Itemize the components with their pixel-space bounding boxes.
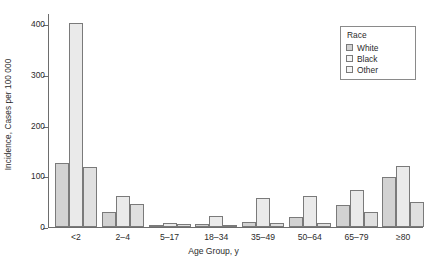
legend-title: Race (346, 30, 410, 40)
legend-item-label: Black (357, 54, 377, 64)
legend-swatch-icon (346, 44, 353, 51)
incidence-by-age-and-race-bar-chart: Incidence, Cases per 100 000 01002003004… (0, 0, 427, 261)
legend-items: WhiteBlackOther (346, 42, 410, 75)
bar (410, 202, 424, 227)
bar (102, 212, 116, 227)
bar (289, 217, 303, 227)
bar (130, 204, 144, 227)
x-axis-title-text: Age Group, y (188, 246, 239, 256)
y-tick-label: 300 (31, 70, 45, 80)
legend-item[interactable]: White (346, 42, 410, 53)
legend-item[interactable]: Black (346, 53, 410, 64)
y-axis-title-text: Incidence, Cases per 100 000 (5, 58, 14, 170)
bar-group (242, 14, 284, 227)
bar (270, 223, 284, 227)
x-axis-line (48, 227, 423, 228)
bar (364, 212, 378, 227)
legend-item-label: White (357, 43, 378, 53)
bar (195, 224, 209, 227)
bar-group (102, 14, 144, 227)
bar (116, 196, 130, 227)
x-tick-label: ≥80 (373, 232, 427, 242)
bar (163, 223, 177, 227)
y-axis-title: Incidence, Cases per 100 000 (2, 0, 16, 228)
bar (83, 167, 97, 227)
bar (336, 205, 350, 227)
x-axis-title: Age Group, y (0, 246, 427, 256)
bar-group (149, 14, 191, 227)
bar (303, 196, 317, 227)
bar (209, 216, 223, 227)
y-tick-label: 100 (31, 171, 45, 181)
legend-item[interactable]: Other (346, 64, 410, 75)
y-tick-label: 0 (40, 222, 45, 232)
bar (177, 224, 191, 227)
bar-group (55, 14, 97, 227)
bar (149, 225, 163, 227)
bar (55, 163, 69, 227)
legend: Race WhiteBlackOther (340, 26, 416, 80)
bar (317, 223, 331, 227)
bar-group (195, 14, 237, 227)
legend-swatch-icon (346, 66, 353, 73)
bar (396, 166, 410, 227)
bar (69, 23, 83, 227)
bar (256, 198, 270, 227)
y-tick-label: 400 (31, 19, 45, 29)
y-tick-label: 200 (31, 121, 45, 131)
bar (223, 225, 237, 227)
bar (382, 177, 396, 227)
bar-group (289, 14, 331, 227)
legend-item-label: Other (357, 65, 378, 75)
bar (350, 190, 364, 227)
legend-swatch-icon (346, 55, 353, 62)
bar (242, 222, 256, 227)
